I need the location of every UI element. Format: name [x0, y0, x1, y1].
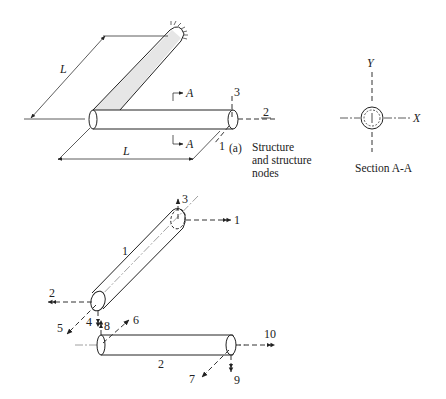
node-axis-2-label: 2	[263, 105, 269, 119]
section-marker-bottom: A	[173, 135, 194, 151]
node-axis-3-label: 3	[234, 85, 240, 99]
caption-line-3: nodes	[252, 167, 279, 179]
svg-text:A: A	[185, 86, 194, 100]
dimension-L-horizontal: L	[122, 144, 130, 158]
section-view: Y X Section A-A	[340, 56, 421, 174]
dof-9-label: 9	[234, 373, 240, 387]
dof-7-label: 7	[189, 372, 195, 386]
dof-6-label: 6	[133, 313, 139, 327]
section-marker-top: A	[173, 86, 194, 101]
structure-view: 3 2 1 L L A A (a) Structure and structur…	[24, 21, 312, 179]
element-dof-view: 1 2 3 1 2 5 4 8 6 10 7 9	[48, 192, 276, 387]
element-1-label: 1	[122, 244, 128, 258]
section-axis-y-label: Y	[367, 56, 375, 70]
dof-10-label: 10	[264, 327, 276, 341]
dof-8-label: 8	[104, 319, 110, 333]
dof-5-label: 5	[57, 321, 63, 335]
caption-line-1: Structure	[252, 141, 294, 153]
node-axis-1-label: 1	[219, 139, 225, 153]
section-caption: Section A-A	[355, 162, 413, 174]
svg-text:A: A	[185, 137, 194, 151]
caption-tag: (a)	[229, 142, 242, 155]
structure-diagram: 3 2 1 L L A A (a) Structure and structur…	[0, 0, 446, 399]
element-2-label: 2	[158, 357, 164, 371]
dof-3-label: 3	[182, 192, 188, 206]
section-axis-x-label: X	[412, 111, 421, 125]
dof-2-label: 2	[49, 286, 55, 300]
dof-4-label: 4	[86, 315, 92, 329]
dof-1-label: 1	[234, 213, 240, 227]
dimension-L-slanted: L	[59, 62, 67, 76]
caption-line-2: and structure	[252, 154, 312, 166]
